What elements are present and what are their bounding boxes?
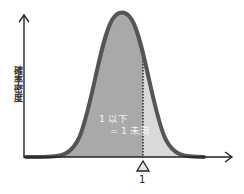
density-diagram <box>0 0 244 194</box>
marker-value-label: 1 <box>139 174 145 185</box>
marker-triangle-icon <box>137 161 149 171</box>
y-axis-label: 確率密度 <box>9 66 23 102</box>
region-label-line2: = 1 未満 <box>110 125 150 137</box>
region-label-line1: 1 以下 <box>99 113 128 125</box>
